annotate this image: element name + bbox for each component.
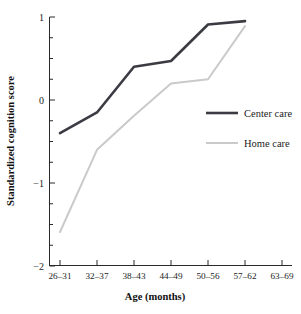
x-tick-label-4: 50–56 [197, 271, 220, 281]
x-tick-label-5: 57–62 [234, 271, 257, 281]
legend-label-center-care: Center care [244, 108, 292, 119]
x-tick-label-6: 63–69 [271, 271, 294, 281]
y-tick-label-neg2: −2 [33, 261, 44, 272]
cognition-score-line-chart: 1 0 −1 −2 26–31 32–37 38–43 44–49 50–56 … [0, 0, 301, 314]
x-tick-label-3: 44–49 [160, 271, 183, 281]
x-axis-title: Age (months) [125, 291, 186, 303]
y-tick-label-neg1: −1 [33, 178, 44, 189]
y-axis-title: Standardized cognition score [5, 76, 16, 206]
legend-label-home-care: Home care [244, 138, 290, 149]
y-tick-label-0: 0 [39, 95, 44, 106]
chart-background [0, 0, 301, 314]
x-tick-label-2: 38–43 [123, 271, 146, 281]
x-tick-label-1: 32–37 [86, 271, 109, 281]
x-tick-label-0: 26–31 [49, 271, 72, 281]
y-tick-label-1: 1 [39, 12, 44, 23]
